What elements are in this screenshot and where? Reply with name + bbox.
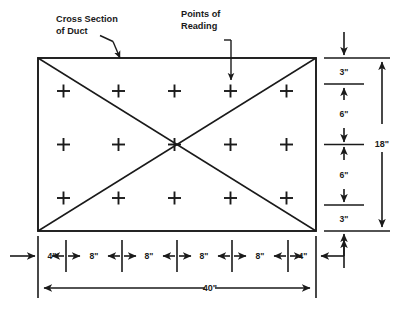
cross-section-label-line1: Cross Section <box>56 14 118 24</box>
dim-label-h-5: 8" <box>256 251 265 261</box>
reading-point-marker <box>224 85 237 98</box>
reading-point-marker <box>280 192 293 205</box>
reading-point-marker <box>57 85 70 98</box>
diagram-canvas: Cross Section of Duct Points of Reading … <box>0 0 408 318</box>
dim-label-h-1: 4" <box>48 251 57 261</box>
reading-points-grid <box>57 85 293 205</box>
reading-point-marker <box>57 138 70 151</box>
dim-label-v-2: 6" <box>340 109 349 119</box>
points-of-reading-label-line2: Reading <box>181 21 217 31</box>
duct-cross-section-diagram: Cross Section of Duct Points of Reading … <box>0 0 408 318</box>
dim-label-v-4: 3" <box>340 214 349 224</box>
reading-point-marker <box>280 85 293 98</box>
cross-section-leader <box>100 36 120 59</box>
points-of-reading-label-line1: Points of <box>181 9 221 19</box>
reading-point-marker <box>224 192 237 205</box>
reading-point-marker <box>224 138 237 151</box>
overall-width-label: 40" <box>203 283 217 293</box>
reading-point-marker <box>168 85 181 98</box>
dim-label-h-3: 8" <box>145 251 154 261</box>
dim-label-h-4: 8" <box>200 251 209 261</box>
reading-point-marker <box>112 85 125 98</box>
reading-point-marker <box>112 138 125 151</box>
reading-point-marker <box>168 192 181 205</box>
reading-point-marker <box>57 192 70 205</box>
dim-label-v-3: 6" <box>340 170 349 180</box>
reading-point-marker <box>112 192 125 205</box>
dim-label-h-2: 8" <box>90 251 99 261</box>
overall-height-label: 18" <box>375 139 389 149</box>
points-of-reading-leader <box>224 40 231 80</box>
cross-section-label-line2: of Duct <box>56 26 88 36</box>
dim-label-v-1: 3" <box>340 67 349 77</box>
dim-label-h-6: 4" <box>299 251 308 261</box>
reading-point-marker <box>280 138 293 151</box>
